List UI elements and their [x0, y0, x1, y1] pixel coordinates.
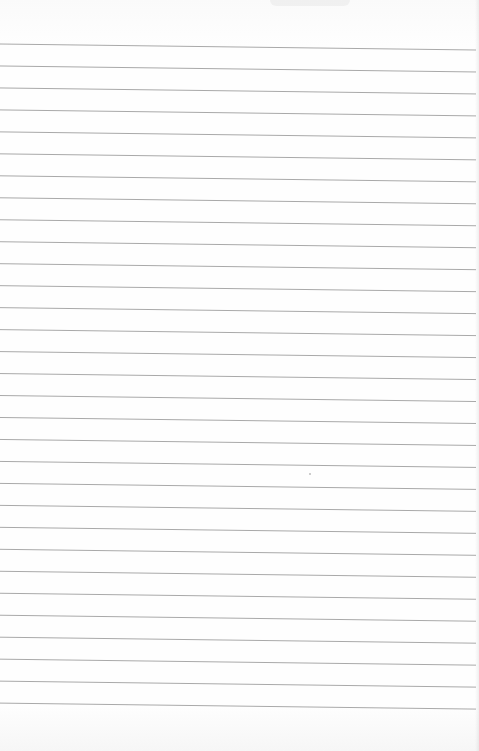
ruled-line: [0, 593, 476, 599]
ruled-line: [0, 220, 476, 226]
ruled-line: [0, 330, 476, 336]
ruled-line: [0, 132, 476, 138]
ruled-line: [0, 44, 476, 50]
ruled-line: [0, 703, 476, 709]
ruled-line: [0, 110, 476, 116]
ruled-line: [0, 374, 476, 380]
ruled-line: [0, 439, 476, 445]
paper-speck: [309, 473, 311, 475]
ruled-line: [0, 176, 476, 182]
ruled-line: [0, 154, 476, 160]
right-edge-shadow: [475, 0, 479, 751]
ruled-line: [0, 527, 476, 533]
ruled-line: [0, 571, 476, 577]
ruled-line: [0, 286, 476, 292]
ruled-lines: [0, 0, 479, 751]
ruled-line: [0, 66, 476, 72]
ruled-line: [0, 198, 476, 204]
ruled-line: [0, 396, 476, 402]
ruled-line: [0, 637, 476, 643]
ruled-line: [0, 505, 476, 511]
ruled-line: [0, 88, 476, 94]
ruled-line: [0, 352, 476, 358]
lined-paper-sheet: [0, 0, 479, 751]
ruled-line: [0, 615, 476, 621]
ruled-line: [0, 264, 476, 270]
ruled-line: [0, 242, 476, 248]
ruled-line: [0, 549, 476, 555]
ruled-line: [0, 483, 476, 489]
ruled-line: [0, 417, 476, 423]
ruled-line: [0, 659, 476, 665]
ruled-line: [0, 681, 476, 687]
ruled-line: [0, 308, 476, 314]
ruled-line: [0, 461, 476, 467]
